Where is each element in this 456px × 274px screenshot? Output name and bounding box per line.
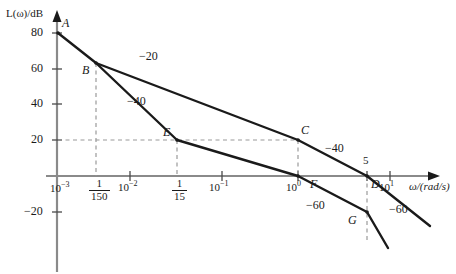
- x-tick-label-5: 5: [363, 155, 369, 166]
- x-tick-label-1-over-15: 1 15: [172, 178, 187, 202]
- marker-C: [296, 138, 300, 142]
- marker-B: [94, 61, 98, 65]
- point-label-A: A: [62, 17, 69, 29]
- x-tick-label-1e0-exp: 0: [297, 179, 301, 188]
- x-tick-label-1e1-base: 10: [379, 181, 390, 193]
- marker-D: [365, 174, 369, 178]
- lower-asymptote-curve: [96, 63, 388, 248]
- x-tick-label-1e0: 100: [286, 180, 301, 193]
- fraction-1-150-numerator: 1: [89, 178, 110, 190]
- slope-label-minus-40-right: −40: [325, 142, 344, 154]
- x-tick-label-1e-2-exp: −2: [129, 179, 138, 188]
- y-axis-arrow-icon: [53, 10, 62, 22]
- y-tick-label-minus-20: −20: [24, 205, 43, 217]
- point-label-B: B: [82, 64, 89, 76]
- fraction-1-15-denominator: 15: [172, 190, 187, 203]
- slope-label-minus-40-left: −40: [127, 95, 146, 107]
- slope-label-minus-60-right: −60: [389, 203, 408, 215]
- marker-E: [175, 138, 179, 142]
- y-tick-label-40: 40: [31, 97, 43, 109]
- x-tick-label-1e-1: 10−1: [209, 180, 229, 193]
- x-axis-title: ω/(rad/s): [409, 181, 450, 192]
- bode-plot-figure: L(ω)/dB ω/(rad/s) 80 60 40 20 −20 10−3 1…: [0, 0, 456, 274]
- marker-F: [296, 174, 300, 178]
- x-tick-label-1e-3-base: 10: [50, 182, 61, 194]
- x-tick-label-1e-3: 10−3: [50, 181, 70, 194]
- x-tick-label-1-over-150: 1 150: [89, 178, 110, 202]
- fraction-1-150-denominator: 150: [89, 190, 110, 203]
- point-label-F: F: [310, 178, 317, 190]
- y-tick-label-60: 60: [31, 62, 43, 74]
- y-axis-title: L(ω)/dB: [6, 8, 43, 19]
- x-tick-label-1e-1-exp: −1: [220, 179, 229, 188]
- point-label-E: E: [163, 126, 170, 138]
- x-tick-label-1e-2-base: 10: [118, 181, 129, 193]
- y-tick-label-80: 80: [31, 26, 43, 38]
- x-tick-label-1e-2: 10−2: [118, 180, 138, 193]
- point-label-D: D: [371, 178, 380, 190]
- x-tick-label-1e1-exp: 1: [390, 179, 394, 188]
- slope-label-minus-20: −20: [139, 50, 158, 62]
- point-label-G: G: [348, 214, 357, 226]
- marker-G: [365, 210, 369, 214]
- marker-A: [56, 31, 60, 35]
- x-tick-label-1e0-base: 10: [286, 181, 297, 193]
- fraction-1-15: 1 15: [172, 178, 187, 202]
- x-tick-label-1e1: 101: [379, 180, 394, 193]
- y-tick-label-20: 20: [31, 133, 43, 145]
- fraction-1-15-numerator: 1: [172, 178, 187, 190]
- slope-label-minus-60-left: −60: [306, 199, 325, 211]
- x-tick-label-1e-3-exp: −3: [61, 180, 70, 189]
- axes-group: [46, 10, 440, 272]
- plot-canvas: [0, 0, 456, 274]
- upper-asymptote-curve: [58, 33, 430, 226]
- point-label-C: C: [301, 124, 309, 136]
- fraction-1-150: 1 150: [89, 178, 110, 202]
- x-tick-label-1e-1-base: 10: [209, 181, 220, 193]
